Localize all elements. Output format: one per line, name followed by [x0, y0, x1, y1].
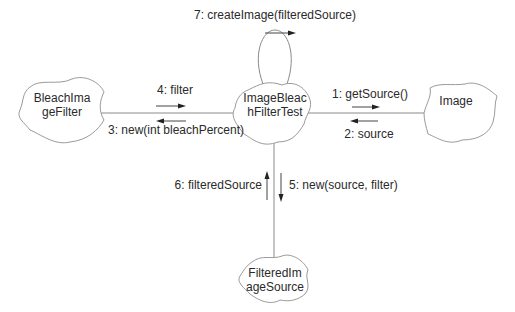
message-6-label: 6: filteredSource: [175, 178, 263, 192]
collaboration-diagram: BleachIma geFilter ImageBleac hFilterTes…: [0, 0, 515, 312]
object-label: hFilterTest: [247, 105, 303, 119]
object-image: [424, 83, 497, 142]
message-2-label: 2: source: [344, 127, 394, 141]
arrowhead-icon: [279, 194, 284, 202]
object-label: ImageBleac: [243, 91, 306, 105]
message-5-label: 5: new(source, filter): [289, 178, 398, 192]
self-loop-test: [258, 30, 291, 84]
arrowhead-icon: [350, 119, 358, 124]
object-label: FilteredIm: [248, 266, 301, 280]
arrowhead-icon: [288, 31, 296, 36]
arrowhead-icon: [372, 105, 380, 110]
object-label: ageSource: [246, 280, 304, 294]
message-4-label: 4: filter: [157, 83, 193, 97]
object-label: geFilter: [42, 105, 82, 119]
message-1-label: 1: getSource(): [332, 87, 408, 101]
object-label: Image: [439, 94, 473, 108]
message-7-label: 7: createImage(filteredSource): [194, 8, 356, 22]
object-label: BleachIma: [34, 91, 91, 105]
message-3-label: 3: new(int bleachPercent): [108, 123, 244, 137]
arrowhead-icon: [265, 171, 270, 179]
arrowhead-icon: [178, 104, 186, 109]
